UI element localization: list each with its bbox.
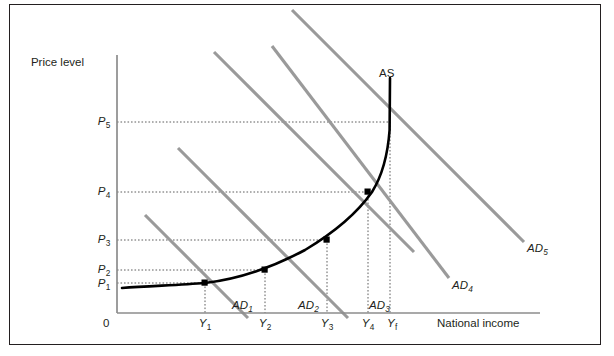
- figure-root: Price level National income 0 P5 P4 P3 P…: [0, 0, 614, 356]
- ad-curves: [145, 10, 524, 318]
- x-tick-y3: Y3: [321, 318, 333, 330]
- equilibrium-points: [202, 189, 371, 286]
- x-tick-yf: Yf: [387, 318, 397, 330]
- ad4-line: [272, 46, 449, 278]
- equilibrium-point-1: [202, 280, 208, 286]
- equilibrium-point-3: [324, 237, 330, 243]
- ad3-curve-label: AD3: [369, 300, 390, 312]
- x-tick-y2: Y2: [259, 318, 271, 330]
- origin-label: 0: [103, 318, 109, 330]
- ad1-curve-label: AD1: [232, 300, 253, 312]
- equilibrium-point-4: [365, 189, 371, 195]
- ad5-curve-label: AD5: [527, 243, 548, 255]
- y-tick-p2: P2: [98, 264, 110, 276]
- as-curve-label: AS: [379, 68, 394, 80]
- as-curve: [122, 78, 390, 288]
- y-tick-p4: P4: [98, 186, 110, 198]
- ad5-line: [292, 10, 524, 242]
- x-tick-y4: Y4: [362, 318, 374, 330]
- ad2-line: [178, 148, 348, 318]
- ad2-curve-label: AD2: [298, 300, 319, 312]
- axis-lines: [117, 55, 540, 313]
- x-axis-title: National income: [437, 318, 519, 330]
- equilibrium-point-2: [262, 267, 268, 273]
- x-tick-y1: Y1: [199, 318, 211, 330]
- y-tick-p5: P5: [98, 116, 110, 128]
- y-axis-title: Price level: [31, 57, 84, 69]
- ad4-curve-label: AD4: [452, 280, 473, 292]
- y-tick-p3: P3: [98, 234, 110, 246]
- income-guide-lines: [205, 122, 390, 313]
- y-tick-p1: P1: [98, 278, 110, 290]
- ad3-line: [214, 52, 414, 252]
